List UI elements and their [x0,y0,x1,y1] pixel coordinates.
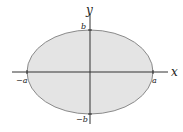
tick-label-pos-b: b [81,22,86,31]
tick-label-neg-b: −b [76,115,88,124]
tick-label-neg-a: −a [16,76,28,85]
tick-label-pos-a: a [152,76,157,85]
x-axis-label: x [171,65,178,79]
ellipse-diagram: y x b −b −a a [0,0,183,132]
y-axis-label: y [85,3,93,17]
